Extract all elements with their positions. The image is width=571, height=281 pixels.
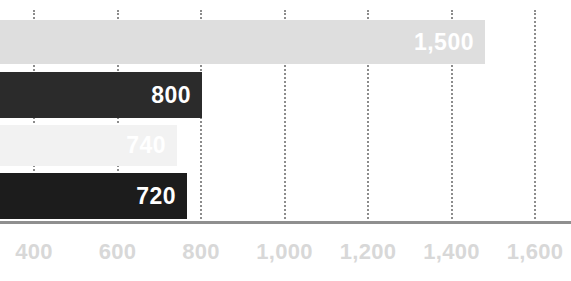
gridline — [534, 10, 536, 223]
bar: 740 — [0, 125, 177, 166]
plot-area: 1,500800740720 — [0, 0, 571, 224]
x-axis-tick-label: 1,400 — [423, 239, 480, 265]
x-axis-tick-label: 1,600 — [507, 239, 564, 265]
bar-value-label: 1,500 — [414, 31, 485, 54]
bar: 720 — [0, 173, 187, 219]
bar-value-label: 720 — [136, 185, 187, 208]
bar-value-label: 740 — [126, 134, 177, 157]
bar-value-label: 800 — [151, 84, 202, 107]
bar: 1,500 — [0, 20, 485, 64]
x-axis: 4006008001,0001,2001,4001,600 — [0, 224, 571, 281]
bar-chart: 1,500800740720 4006008001,0001,2001,4001… — [0, 0, 571, 281]
x-axis-tick-label: 800 — [182, 239, 220, 265]
bar: 800 — [0, 72, 202, 118]
x-axis-tick-label: 1,200 — [340, 239, 397, 265]
x-axis-tick-label: 600 — [99, 239, 137, 265]
x-axis-tick-label: 400 — [15, 239, 53, 265]
x-axis-tick-label: 1,000 — [256, 239, 313, 265]
